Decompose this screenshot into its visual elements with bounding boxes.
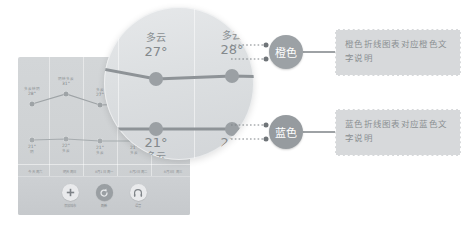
blue-description-box: 蓝色折线图表对应蓝色文字说明 <box>335 109 461 156</box>
leader-endpoint-dot <box>264 57 269 62</box>
orange-description-box: 橙色折线图表对应橙色文字说明 <box>335 29 461 76</box>
leader-endpoint-dot <box>264 137 269 142</box>
orange-series-badge[interactable]: 橙色 <box>269 35 303 69</box>
leader-endpoint-dot <box>264 43 269 48</box>
leader-endpoint-dot <box>264 123 269 128</box>
blue-series-badge[interactable]: 蓝色 <box>269 115 303 149</box>
diagram-canvas: 多云转阴 28° 阴转多云 31° 多云 27° 多云 28° 多云 27° <box>0 0 472 232</box>
